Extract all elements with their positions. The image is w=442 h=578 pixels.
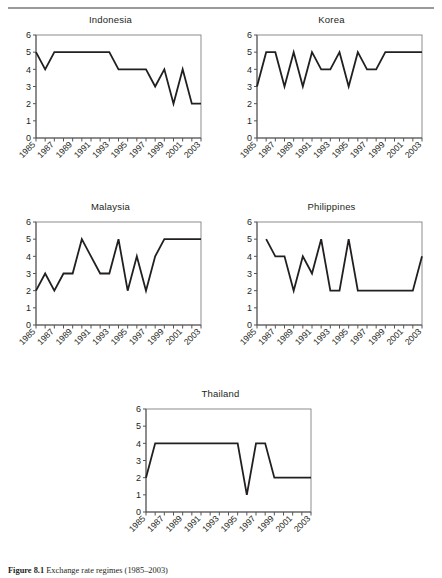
y-tick-label: 6: [247, 30, 252, 40]
figure-caption-text: Exchange rate regimes (1985–2003): [46, 566, 168, 575]
data-line-philippines: [266, 239, 422, 290]
x-tick-label: 1987: [256, 139, 277, 160]
x-tick-label: 1995: [108, 326, 129, 347]
x-tick-label: 1985: [238, 139, 259, 160]
x-tick-label: 1987: [35, 326, 56, 347]
x-tick-label: 2001: [163, 326, 184, 347]
x-tick-label: 1991: [182, 513, 203, 534]
y-tick-label: 3: [247, 269, 252, 279]
x-tick-label: 1997: [348, 139, 369, 160]
figure-caption-label: Figure 8.1: [8, 566, 44, 575]
plot-frame: [36, 222, 201, 325]
x-tick-label: 1997: [127, 139, 148, 160]
x-tick-label: 2003: [182, 326, 203, 347]
x-tick-label: 1995: [329, 139, 350, 160]
y-tick-label: 6: [26, 217, 31, 227]
x-tick-label: 1999: [366, 139, 387, 160]
x-tick-label: 1993: [311, 326, 332, 347]
chart-panel-korea: Korea01234561985198719891991199319951997…: [235, 14, 428, 184]
x-tick-label: 2001: [273, 513, 294, 534]
plot-area-thailand: 0123456198519871989199119931995199719992…: [124, 403, 317, 558]
x-tick-label: 1987: [145, 513, 166, 534]
x-tick-label: 1997: [348, 326, 369, 347]
y-tick-label: 2: [26, 99, 31, 109]
y-tick-label: 2: [26, 286, 31, 296]
y-tick-label: 1: [247, 116, 252, 126]
y-tick-label: 3: [26, 269, 31, 279]
x-tick-label: 1995: [108, 139, 129, 160]
x-tick-label: 1987: [35, 139, 56, 160]
y-tick-label: 2: [247, 286, 252, 296]
x-tick-label: 1999: [145, 326, 166, 347]
x-tick-label: 1993: [200, 513, 221, 534]
chart-title-thailand: Thailand: [124, 388, 317, 400]
x-tick-label: 1985: [127, 513, 148, 534]
x-tick-label: 1991: [293, 326, 314, 347]
plot-frame: [146, 409, 311, 512]
y-tick-label: 6: [136, 404, 141, 414]
chart-title-malaysia: Malaysia: [14, 201, 207, 213]
chart-panel-philippines: Philippines01234561985198719891991199319…: [235, 201, 428, 371]
data-line-thailand: [146, 443, 311, 495]
y-tick-label: 1: [247, 303, 252, 313]
data-line-indonesia: [36, 52, 201, 104]
y-tick-label: 3: [136, 456, 141, 466]
plot-area-philippines: 0123456198519871989199119931995199719992…: [235, 216, 428, 371]
chart-title-korea: Korea: [235, 14, 428, 26]
figure-caption: Figure 8.1 Exchange rate regimes (1985–2…: [8, 566, 168, 575]
y-tick-label: 1: [26, 116, 31, 126]
y-tick-label: 2: [247, 99, 252, 109]
y-tick-label: 4: [136, 439, 141, 449]
x-tick-label: 1997: [127, 326, 148, 347]
plot-area-indonesia: 0123456198519871989199119931995199719992…: [14, 29, 207, 184]
data-line-korea: [257, 52, 422, 86]
x-tick-label: 2003: [403, 139, 424, 160]
x-tick-label: 1999: [366, 326, 387, 347]
x-tick-label: 2003: [182, 139, 203, 160]
y-tick-label: 4: [26, 65, 31, 75]
plot-area-malaysia: 0123456198519871989199119931995199719992…: [14, 216, 207, 371]
x-tick-label: 1985: [17, 139, 38, 160]
y-tick-label: 5: [26, 47, 31, 57]
chart-panel-malaysia: Malaysia01234561985198719891991199319951…: [14, 201, 207, 371]
y-tick-label: 2: [136, 473, 141, 483]
plot-frame: [257, 222, 422, 325]
y-tick-label: 4: [26, 252, 31, 262]
x-tick-label: 2003: [292, 513, 313, 534]
plot-frame: [36, 35, 201, 138]
figure-page: Indonesia0123456198519871989199119931995…: [0, 0, 442, 578]
x-tick-label: 1993: [311, 139, 332, 160]
top-divider-rule: [8, 7, 434, 9]
x-tick-label: 1993: [90, 326, 111, 347]
y-tick-label: 4: [247, 252, 252, 262]
chart-panel-thailand: Thailand01234561985198719891991199319951…: [124, 388, 317, 558]
x-tick-label: 1999: [145, 139, 166, 160]
x-tick-label: 1989: [53, 326, 74, 347]
y-tick-label: 6: [247, 217, 252, 227]
y-tick-label: 5: [26, 234, 31, 244]
chart-title-philippines: Philippines: [235, 201, 428, 213]
x-tick-label: 1985: [238, 326, 259, 347]
x-tick-label: 2001: [384, 326, 405, 347]
y-tick-label: 5: [247, 234, 252, 244]
x-tick-label: 1991: [293, 139, 314, 160]
x-tick-label: 1991: [72, 139, 93, 160]
y-tick-label: 3: [247, 82, 252, 92]
x-tick-label: 1989: [53, 139, 74, 160]
y-tick-label: 6: [26, 30, 31, 40]
x-tick-label: 1991: [72, 326, 93, 347]
y-tick-label: 5: [247, 47, 252, 57]
x-tick-label: 2003: [403, 326, 424, 347]
x-tick-label: 1987: [256, 326, 277, 347]
chart-title-indonesia: Indonesia: [14, 14, 207, 26]
x-tick-label: 1997: [237, 513, 258, 534]
chart-panel-indonesia: Indonesia0123456198519871989199119931995…: [14, 14, 207, 184]
x-tick-label: 1985: [17, 326, 38, 347]
data-line-malaysia: [36, 239, 201, 290]
y-tick-label: 1: [26, 303, 31, 313]
x-tick-label: 1989: [274, 326, 295, 347]
x-tick-label: 1993: [90, 139, 111, 160]
x-tick-label: 1995: [329, 326, 350, 347]
x-tick-label: 1989: [163, 513, 184, 534]
y-tick-label: 1: [136, 490, 141, 500]
